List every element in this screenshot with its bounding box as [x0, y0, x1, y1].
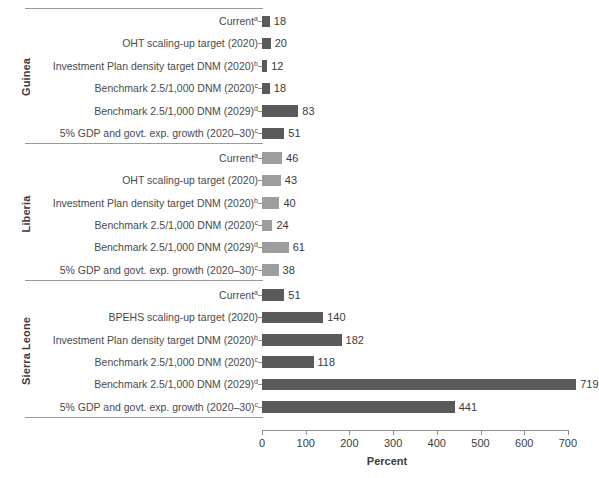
group-separator — [25, 280, 263, 281]
bar-value-label: 182 — [346, 329, 364, 351]
bar — [262, 152, 282, 164]
category-label: 5% GDP and govt. exp. growth (2020–30)c — [60, 259, 262, 281]
bar — [262, 312, 323, 324]
x-axis-tick — [349, 430, 350, 435]
group-separator — [25, 143, 263, 144]
bar-value-label: 61 — [293, 236, 305, 258]
chart-row: Investment Plan density target DNM (2020… — [0, 55, 568, 77]
category-label-text: OHT scaling-up target (2020) — [122, 37, 258, 49]
bar — [262, 60, 267, 72]
category-label-text: Benchmark 2.5/1,000 DNM (2029) — [94, 378, 254, 390]
category-label: OHT scaling-up target (2020) — [122, 169, 262, 191]
bar — [262, 197, 279, 209]
category-label-text: Benchmark 2.5/1,000 DNM (2020) — [95, 219, 255, 231]
chart-row: Benchmark 2.5/1,000 DNM (2020)c118 — [0, 351, 568, 373]
bar — [262, 175, 281, 187]
category-label-text: 5% GDP and govt. exp. growth (2020–30) — [60, 401, 255, 413]
category-label: Benchmark 2.5/1,000 DNM (2020)c — [95, 77, 262, 99]
chart-row: Investment Plan density target DNM (2020… — [0, 192, 568, 214]
x-axis-tick-label: 700 — [559, 437, 577, 449]
bar-value-label: 140 — [327, 306, 345, 328]
bar-value-label: 38 — [283, 259, 295, 281]
bar-value-label: 40 — [283, 192, 295, 214]
bar-value-label: 51 — [288, 284, 300, 306]
category-label: Investment Plan density target DNM (2020… — [53, 192, 262, 214]
category-label: Benchmark 2.5/1,000 DNM (2020)c — [95, 214, 262, 236]
category-label-text: 5% GDP and govt. exp. growth (2020–30) — [60, 264, 255, 276]
chart-row: Investment Plan density target DNM (2020… — [0, 329, 568, 351]
category-label-text: BPEHS scaling-up target (2020) — [109, 311, 258, 323]
category-label: Currenta — [219, 10, 262, 32]
x-axis-tick-label: 300 — [384, 437, 402, 449]
chart-row: 5% GDP and govt. exp. growth (2020–30)c5… — [0, 122, 568, 144]
x-axis-tick — [568, 430, 569, 435]
bar-value-label: 118 — [318, 351, 336, 373]
category-label: Currenta — [219, 147, 262, 169]
category-label: Benchmark 2.5/1,000 DNM (2020)c — [95, 351, 262, 373]
category-label-text: Investment Plan density target DNM (2020… — [53, 197, 254, 209]
chart-row: Benchmark 2.5/1,000 DNM (2020)c18 — [0, 77, 568, 99]
bar — [262, 105, 298, 117]
bar-value-label: 18 — [274, 10, 286, 32]
bar — [262, 16, 270, 28]
x-axis-tick — [393, 430, 394, 435]
chart-row: Benchmark 2.5/1,000 DNM (2029)d719 — [0, 373, 568, 395]
category-label-text: Investment Plan density target DNM (2020… — [53, 60, 254, 72]
chart-row: Currenta46 — [0, 147, 568, 169]
bar-value-label: 20 — [275, 32, 287, 54]
x-axis-tick-label: 600 — [515, 437, 533, 449]
group-separator — [25, 417, 263, 418]
category-label: 5% GDP and govt. exp. growth (2020–30)c — [60, 122, 262, 144]
x-axis-tick — [524, 430, 525, 435]
bar-value-label: 18 — [274, 77, 286, 99]
bar — [262, 356, 314, 368]
category-label-text: 5% GDP and govt. exp. growth (2020–30) — [60, 127, 255, 139]
category-label: BPEHS scaling-up target (2020) — [109, 306, 262, 328]
x-axis-line — [262, 430, 568, 431]
x-axis-tick — [437, 430, 438, 435]
category-label: Benchmark 2.5/1,000 DNM (2029)d — [94, 236, 262, 258]
category-label-text: Current — [219, 15, 254, 27]
x-axis-tick-label: 400 — [428, 437, 446, 449]
category-label: 5% GDP and govt. exp. growth (2020–30)c — [60, 396, 262, 418]
x-axis-title: Percent — [262, 455, 512, 467]
bar-value-label: 46 — [286, 147, 298, 169]
chart-row: Currenta51 — [0, 284, 568, 306]
chart-row: Currenta18 — [0, 10, 568, 32]
group-guinea: GuineaCurrenta18OHT scaling-up target (2… — [0, 10, 568, 144]
category-label: Investment Plan density target DNM (2020… — [53, 55, 262, 77]
bar-value-label: 43 — [285, 169, 297, 191]
category-label-text: Benchmark 2.5/1,000 DNM (2020) — [95, 82, 255, 94]
bar-value-label: 51 — [288, 122, 300, 144]
chart-row: OHT scaling-up target (2020)43 — [0, 169, 568, 191]
group-liberia: LiberiaCurrenta46OHT scaling-up target (… — [0, 147, 568, 281]
bar — [262, 264, 279, 276]
group-sierra-leone: Sierra LeoneCurrenta51BPEHS scaling-up t… — [0, 284, 568, 418]
x-axis-tick-label: 500 — [471, 437, 489, 449]
category-label: Benchmark 2.5/1,000 DNM (2029)d — [94, 100, 262, 122]
group-separator — [25, 8, 263, 9]
chart-row: BPEHS scaling-up target (2020)140 — [0, 306, 568, 328]
bar — [262, 220, 272, 232]
chart-row: 5% GDP and govt. exp. growth (2020–30)c4… — [0, 396, 568, 418]
category-label: Benchmark 2.5/1,000 DNM (2029)d — [94, 373, 262, 395]
chart-row: Benchmark 2.5/1,000 DNM (2029)d61 — [0, 236, 568, 258]
bar-value-label: 441 — [459, 396, 477, 418]
bar-value-label: 24 — [276, 214, 288, 236]
category-label-text: Current — [219, 289, 254, 301]
bar — [262, 379, 576, 391]
bar — [262, 289, 284, 301]
bar — [262, 334, 342, 346]
category-label-text: Current — [219, 152, 254, 164]
bar-value-label: 12 — [271, 55, 283, 77]
bar — [262, 242, 289, 254]
category-label: Investment Plan density target DNM (2020… — [53, 329, 262, 351]
category-label-text: Benchmark 2.5/1,000 DNM (2029) — [94, 241, 254, 253]
bar — [262, 38, 271, 50]
bar-value-label: 83 — [302, 100, 314, 122]
category-label-text: Investment Plan density target DNM (2020… — [53, 334, 254, 346]
chart-row: OHT scaling-up target (2020)20 — [0, 32, 568, 54]
chart-row: Benchmark 2.5/1,000 DNM (2029)d83 — [0, 100, 568, 122]
x-axis-tick-label: 0 — [259, 437, 265, 449]
